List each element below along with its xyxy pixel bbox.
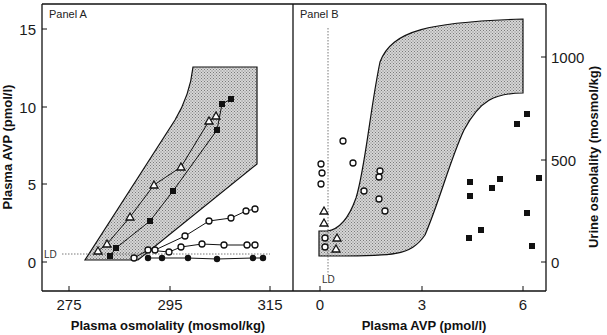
- panel-a-y-axis: 0 5 10 15 Plasma AVP (pmol/l): [0, 21, 47, 271]
- panel-b-normal-range-band: [319, 19, 523, 256]
- y-tick-label: 0: [551, 254, 559, 271]
- panel-b-x-axis: 0 3 6 Plasma AVP (pmol/l): [316, 286, 527, 333]
- panel-a-ld-label: LD: [44, 249, 57, 260]
- panel-b-y-axis-title: Urine osmolality (mosmol/kg): [586, 66, 601, 248]
- y-tick-label: 5: [28, 176, 36, 193]
- panel-b-y-axis: 0 500 1000 Urine osmolality (mosmol/kg): [541, 49, 601, 271]
- panel-b-x-axis-title: Plasma AVP (pmol/l): [362, 318, 487, 333]
- panel-b-label: Panel B: [300, 8, 339, 20]
- panel-a-normal-range-band: [85, 67, 257, 260]
- panel-a-x-axis-title: Plasma osmolality (mosmol/kg): [71, 318, 265, 333]
- x-tick-label: 275: [56, 296, 81, 313]
- y-tick-label: 15: [19, 21, 36, 38]
- x-tick-label: 6: [519, 296, 527, 313]
- y-tick-label: 0: [28, 254, 36, 271]
- y-tick-label: 10: [19, 99, 36, 116]
- panel-b: Panel B 0 3 6 Plasma AVP (pmol/l) 0 500 …: [300, 8, 601, 333]
- x-tick-label: 3: [418, 296, 426, 313]
- x-tick-label: 0: [316, 296, 324, 313]
- panel-b-filled-squares: [466, 111, 542, 249]
- figure: Panel A 0 5 10 15 Plasma AVP (pmol/l) 27…: [0, 0, 607, 335]
- panel-b-ld-label: LD: [322, 274, 335, 285]
- y-tick-label: 1000: [551, 49, 584, 66]
- y-tick-label: 500: [551, 152, 576, 169]
- panel-a-x-axis: 275 295 315 Plasma osmolality (mosmol/kg…: [56, 286, 282, 333]
- x-tick-label: 315: [257, 296, 282, 313]
- x-tick-label: 295: [157, 296, 182, 313]
- panel-a-y-axis-title: Plasma AVP (pmol/l): [0, 85, 15, 210]
- panel-a-label: Panel A: [49, 8, 88, 20]
